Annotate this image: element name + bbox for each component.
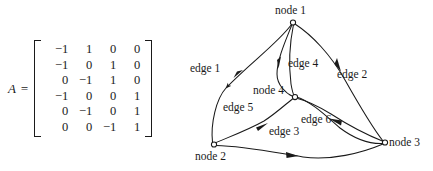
matrix-cell: −1 xyxy=(93,120,117,136)
node-marker-node4[interactable] xyxy=(292,94,297,99)
matrix-equation: A = −1 1 0 0 −1 0 1 0 0 −1 1 0 −1 xyxy=(8,40,152,137)
matrix-cell: 0 xyxy=(93,89,117,105)
matrix-cell: 0 xyxy=(45,120,69,136)
matrix-row: −1 0 0 1 xyxy=(45,89,141,105)
matrix-cell: −1 xyxy=(69,73,93,89)
matrix-cell: −1 xyxy=(69,104,93,120)
matrix-cell: 1 xyxy=(117,89,141,105)
matrix-cell: 0 xyxy=(69,120,93,136)
matrix-grid: −1 1 0 0 −1 0 1 0 0 −1 1 0 −1 0 0 1 xyxy=(45,42,141,135)
matrix-name-label: A = xyxy=(8,81,34,97)
matrix-cell: 1 xyxy=(117,104,141,120)
matrix-cell: 1 xyxy=(93,58,117,74)
matrix-cell: 0 xyxy=(45,73,69,89)
node-label-node4: node 4 xyxy=(253,84,284,96)
matrix-cell: 1 xyxy=(93,73,117,89)
node-label-node3: node 3 xyxy=(389,136,420,148)
matrix-cell: 0 xyxy=(117,58,141,74)
directed-graph-figure: node 1 node 2 node 3 node 4 edge 1 edge … xyxy=(185,0,433,171)
node-marker-node2[interactable] xyxy=(211,142,216,147)
matrix-cell: 1 xyxy=(117,120,141,136)
edge-label-edge5: edge 5 xyxy=(223,101,253,113)
matrix-cell: 0 xyxy=(117,73,141,89)
matrix-row: 0 0 −1 1 xyxy=(45,120,141,136)
matrix-row: −1 1 0 0 xyxy=(45,42,141,58)
edge-label-edge6: edge 6 xyxy=(301,113,331,125)
matrix-cell: 0 xyxy=(69,58,93,74)
edge-label-edge2: edge 2 xyxy=(337,68,367,80)
matrix-brackets: −1 1 0 0 −1 0 1 0 0 −1 1 0 −1 0 0 1 xyxy=(34,40,152,137)
edge-label-edge3: edge 3 xyxy=(269,125,299,137)
node-marker-node3[interactable] xyxy=(382,140,387,145)
matrix-cell: 0 xyxy=(117,42,141,58)
matrix-cell: −1 xyxy=(45,58,69,74)
node-marker-node1[interactable] xyxy=(290,20,295,25)
edge-arrow-edge3 xyxy=(286,152,299,158)
matrix-cell: 1 xyxy=(69,42,93,58)
matrix-cell: 0 xyxy=(93,42,117,58)
matrix-cell: −1 xyxy=(45,42,69,58)
node-label-node1: node 1 xyxy=(275,4,306,16)
matrix-cell: 0 xyxy=(93,104,117,120)
edge-label-edge1: edge 1 xyxy=(190,62,220,74)
edge-arrow-edge1 xyxy=(234,70,244,78)
matrix-cell: 0 xyxy=(69,89,93,105)
matrix-row: 0 −1 1 0 xyxy=(45,73,141,89)
matrix-cell: −1 xyxy=(45,89,69,105)
node-label-node2: node 2 xyxy=(195,150,226,162)
matrix-row: −1 0 1 0 xyxy=(45,58,141,74)
matrix-cell: 0 xyxy=(45,104,69,120)
matrix-row: 0 −1 0 1 xyxy=(45,104,141,120)
edge-label-edge4: edge 4 xyxy=(288,57,318,69)
edge-path-edge3 xyxy=(216,144,383,158)
